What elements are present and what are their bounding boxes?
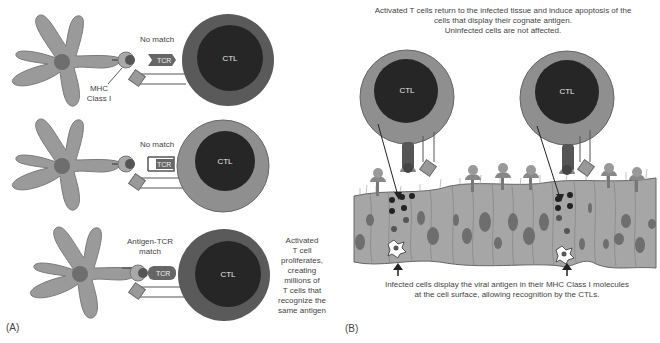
row-3-status-line1: Antigen-TCR [114,237,186,247]
mhc-label-line2: Class I [82,94,116,104]
panel-b-top-caption: Activated T cells return to the infected… [358,6,648,36]
ctl-2 [520,51,614,202]
dendritic-cell-2 [12,119,121,210]
svg-text:TCR: TCR [157,57,171,64]
activation-note: Activated T cell proliferates, creating … [272,236,332,316]
panel-b-bottom-caption: Infected cells display the viral antigen… [362,280,652,300]
row-2-status: No match [122,140,192,150]
svg-text:TCR: TCR [156,270,170,277]
svg-text:TCR: TCR [157,161,171,168]
ctl-label-b1: CTL [389,86,425,96]
panel-a-label: (A) [6,322,19,333]
ctl-label-b2: CTL [549,87,585,97]
mhc-label-line1: MHC [84,84,114,94]
row-1-status: No match [122,35,192,45]
panel-b-label: (B) [345,323,358,334]
row-3-status-line2: match [114,247,186,257]
ctl-label-1: CTL [212,54,248,64]
ctl-label-2: CTL [207,157,243,167]
ctl-label-3: CTL [210,270,246,280]
